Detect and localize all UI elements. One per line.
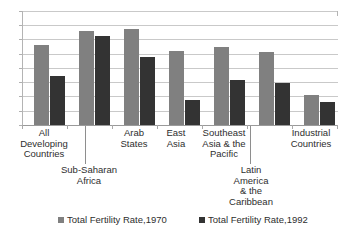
legend-item-1992: Total Fertility Rate,1992 bbox=[199, 214, 308, 225]
fertility-rate-bar-chart: 8 7 6 5 4 3 2 1 0 bbox=[0, 0, 347, 236]
bar-1992-arab-states bbox=[140, 57, 155, 125]
category-separator-sub-saharan bbox=[85, 126, 86, 164]
legend-label-1992: Total Fertility Rate,1992 bbox=[208, 214, 308, 225]
bar-1970-all-developing-countries bbox=[34, 45, 49, 126]
bar-1970-industrial-countries bbox=[304, 95, 319, 125]
bar-group-arab-states bbox=[124, 11, 155, 125]
bars-layer bbox=[22, 11, 338, 125]
bar-1970-sub-saharan-africa bbox=[79, 31, 94, 125]
legend-label-1970: Total Fertility Rate,1970 bbox=[67, 214, 167, 225]
bar-group-latin-america-and-the-caribbean bbox=[259, 11, 290, 125]
bar-group-industrial-countries bbox=[304, 11, 335, 125]
bar-1992-industrial-countries bbox=[320, 102, 335, 126]
bar-1992-east-asia bbox=[185, 100, 200, 125]
legend-swatch-1970-icon bbox=[58, 217, 64, 223]
bar-1992-latin-america-and-the-caribbean bbox=[275, 83, 290, 125]
bar-group-southeast-asia-and-the-pacific bbox=[214, 11, 245, 125]
category-label-arab-states: Arab States bbox=[110, 128, 158, 149]
category-label-industrial-countries: Industrial Countries bbox=[280, 128, 342, 149]
category-label-all-developing-countries: All Developing Countries bbox=[10, 128, 78, 160]
bar-group-all-developing-countries bbox=[34, 11, 65, 125]
bar-1992-sub-saharan-africa bbox=[95, 36, 110, 125]
category-label-southeast-asia-and-the-pacific: Southeast Asia & the Pacific bbox=[193, 128, 255, 160]
bar-1992-southeast-asia-and-the-pacific bbox=[230, 80, 245, 125]
chart-legend: Total Fertility Rate,1970 Total Fertilit… bbox=[0, 214, 347, 230]
bar-group-sub-saharan-africa bbox=[79, 11, 110, 125]
bar-1970-southeast-asia-and-the-pacific bbox=[214, 47, 229, 125]
bar-group-east-asia bbox=[169, 11, 200, 125]
bar-1970-arab-states bbox=[124, 29, 139, 125]
legend-item-1970: Total Fertility Rate,1970 bbox=[58, 214, 167, 225]
category-label-latin-america-and-the-caribbean: Latin America & the Caribbean bbox=[222, 165, 280, 207]
bar-1970-east-asia bbox=[169, 51, 184, 125]
category-label-east-asia: East Asia bbox=[157, 128, 195, 149]
bar-1970-latin-america-and-the-caribbean bbox=[259, 52, 274, 125]
bar-1992-all-developing-countries bbox=[50, 76, 65, 125]
category-label-sub-saharan-africa: Sub-Saharan Africa bbox=[50, 165, 128, 186]
legend-swatch-1992-icon bbox=[199, 217, 205, 223]
x-axis-line bbox=[22, 125, 338, 126]
